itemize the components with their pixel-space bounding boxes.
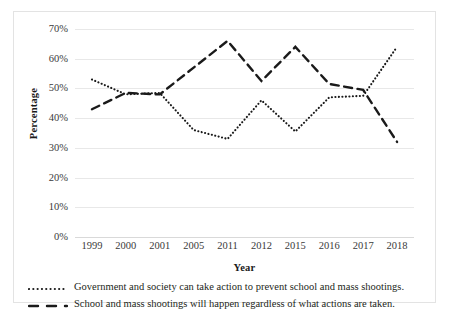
x-axis-tick-label: 2012 — [251, 241, 272, 252]
y-axis-tick-label: 50% — [49, 83, 68, 94]
y-axis-tick-labels: 0%10%20%30%40%50%60%70% — [28, 29, 72, 237]
dotted-line-icon — [28, 281, 68, 293]
x-axis-tick-label: 2016 — [319, 241, 340, 252]
y-axis-tick-label: 40% — [49, 113, 68, 124]
legend-label: Government and society can take action t… — [74, 281, 404, 293]
x-axis-tick-label: 2011 — [217, 241, 238, 252]
series-line-dashed — [92, 41, 397, 142]
x-axis-title: Year — [75, 262, 414, 273]
plot-area — [75, 29, 414, 237]
y-axis-tick-label: 60% — [49, 53, 68, 64]
x-axis-tick-labels: 1999200020012005201120122015201620172018 — [75, 241, 414, 257]
chart-figure: Percentage 0%10%20%30%40%50%60%70% 19992… — [13, 11, 436, 303]
y-axis-tick-label: 0% — [54, 232, 68, 243]
x-axis-tick-label: 2018 — [387, 241, 408, 252]
series-lines — [75, 29, 414, 237]
y-axis-tick-label: 30% — [49, 143, 68, 154]
x-axis-tick-label: 2005 — [183, 241, 204, 252]
x-axis-tick-label: 2000 — [115, 241, 136, 252]
y-axis-tick-label: 20% — [49, 172, 68, 183]
dashed-line-icon — [28, 298, 68, 310]
y-axis-tick-label: 70% — [49, 24, 68, 35]
x-axis-tick-label: 2017 — [353, 241, 374, 252]
gridline — [75, 237, 414, 238]
legend-entry[interactable]: School and mass shootings will happen re… — [28, 295, 428, 312]
legend-label: School and mass shootings will happen re… — [74, 298, 395, 310]
chart-legend: Government and society can take action t… — [28, 278, 428, 312]
x-axis-tick-label: 2001 — [149, 241, 170, 252]
x-axis-tick-label: 2015 — [285, 241, 306, 252]
legend-entry[interactable]: Government and society can take action t… — [28, 278, 428, 295]
y-axis-tick-label: 10% — [49, 202, 68, 213]
x-axis-tick-label: 1999 — [81, 241, 102, 252]
